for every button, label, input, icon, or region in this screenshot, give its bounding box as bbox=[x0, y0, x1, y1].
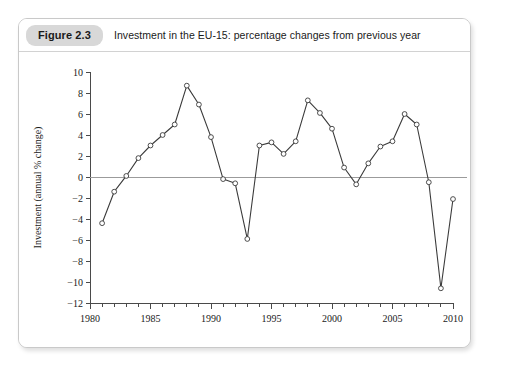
figure-number-badge: Figure 2.3 bbox=[26, 25, 103, 46]
data-point-marker bbox=[172, 122, 177, 127]
x-axis-tick-label: 2005 bbox=[383, 313, 403, 324]
investment-series-line bbox=[102, 86, 453, 289]
figure-body: −12−10−8−6−4−202468101980198519901995200… bbox=[19, 52, 470, 348]
y-axis-tick-label: 8 bbox=[78, 88, 83, 99]
data-point-marker bbox=[269, 140, 274, 145]
data-point-marker bbox=[136, 156, 141, 161]
data-point-marker bbox=[257, 143, 262, 148]
y-axis-tick-label: −2 bbox=[72, 193, 83, 204]
data-point-marker bbox=[209, 135, 214, 140]
data-point-marker bbox=[221, 177, 226, 182]
y-axis-tick-label: 0 bbox=[78, 172, 83, 183]
data-point-marker bbox=[318, 111, 323, 116]
y-axis-tick-label: −12 bbox=[67, 298, 83, 309]
data-point-marker bbox=[112, 189, 117, 194]
data-point-marker bbox=[342, 165, 347, 170]
data-point-marker bbox=[233, 181, 238, 186]
page-root: Figure 2.3 Investment in the EU-15: perc… bbox=[0, 0, 507, 381]
x-axis-tick-label: 1990 bbox=[201, 313, 221, 324]
data-point-marker bbox=[330, 126, 335, 131]
figure-header: Figure 2.3 Investment in the EU-15: perc… bbox=[19, 19, 470, 52]
data-point-marker bbox=[366, 161, 371, 166]
y-axis-tick-label: 10 bbox=[73, 67, 83, 78]
data-point-marker bbox=[451, 197, 456, 202]
data-point-marker bbox=[184, 83, 189, 88]
figure-card: Figure 2.3 Investment in the EU-15: perc… bbox=[18, 18, 471, 348]
x-axis-tick-label: 2010 bbox=[443, 313, 463, 324]
data-point-marker bbox=[124, 174, 129, 179]
data-point-marker bbox=[100, 221, 105, 226]
data-point-marker bbox=[439, 286, 444, 291]
y-axis-tick-label: −10 bbox=[67, 277, 83, 288]
data-point-marker bbox=[402, 112, 407, 117]
data-point-marker bbox=[245, 237, 250, 242]
y-axis-tick-label: −8 bbox=[72, 256, 83, 267]
data-point-marker bbox=[414, 122, 419, 127]
data-point-marker bbox=[354, 182, 359, 187]
y-axis-tick-label: 2 bbox=[78, 151, 83, 162]
figure-caption: Investment in the EU-15: percentage chan… bbox=[114, 29, 421, 41]
investment-line-chart: −12−10−8−6−4−202468101980198519901995200… bbox=[19, 52, 470, 348]
y-axis-title: Investment (annual % change) bbox=[32, 127, 44, 249]
data-point-marker bbox=[281, 152, 286, 157]
x-axis-tick-label: 1985 bbox=[141, 313, 161, 324]
x-axis-tick-label: 1995 bbox=[262, 313, 282, 324]
x-axis-tick-label: 2000 bbox=[322, 313, 342, 324]
y-axis-tick-label: −4 bbox=[72, 214, 83, 225]
y-axis-tick-label: 6 bbox=[78, 109, 83, 120]
data-point-marker bbox=[293, 139, 298, 144]
x-axis-tick-label: 1980 bbox=[80, 313, 100, 324]
data-point-marker bbox=[390, 139, 395, 144]
data-point-marker bbox=[426, 180, 431, 185]
y-axis-tick-label: −6 bbox=[72, 235, 83, 246]
data-point-marker bbox=[160, 133, 165, 138]
data-point-marker bbox=[148, 143, 153, 148]
data-point-marker bbox=[305, 98, 310, 103]
data-point-marker bbox=[378, 144, 383, 149]
data-point-marker bbox=[197, 102, 202, 107]
y-axis-tick-label: 4 bbox=[78, 130, 83, 141]
